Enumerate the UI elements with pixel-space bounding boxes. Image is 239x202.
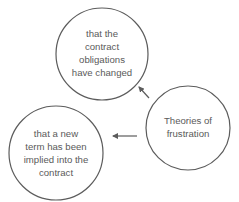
node-text-implied-term: that a new term has been implied into th… [24,127,89,179]
node-label-obligations-changed: that the contract obligations have chang… [62,22,142,84]
node-label-implied-term: that a new term has been implied into th… [12,122,100,184]
node-text-theories-of-frustration: Theories of frustration [164,114,212,140]
node-text-obligations-changed: that the contract obligations have chang… [72,27,132,79]
node-label-theories-of-frustration: Theories of frustration [150,112,226,142]
arrow-to-obligations-changed [139,87,149,98]
